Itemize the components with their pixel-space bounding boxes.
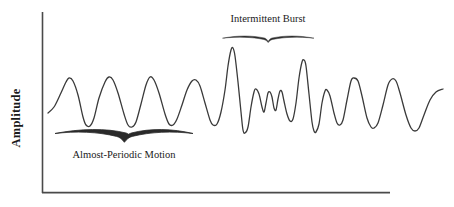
plot-canvas: Amplitude Intermittent Burst Almost-Peri… [0, 0, 454, 207]
almost-periodic-brace [55, 130, 193, 143]
waveform-figure: Amplitude Intermittent Burst Almost-Peri… [0, 0, 454, 207]
almost-periodic-motion-label: Almost-Periodic Motion [73, 149, 177, 160]
intermittent-burst-brace [223, 36, 315, 43]
intermittent-burst-label: Intermittent Burst [231, 13, 306, 24]
signal-waveform [48, 47, 443, 133]
y-axis-title: Amplitude [9, 88, 23, 147]
